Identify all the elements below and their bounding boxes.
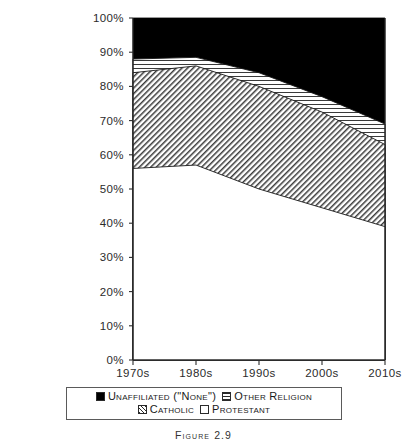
area-series-group [133,18,385,360]
legend-label-unaffiliated: Unaffiliated ("None") [108,391,216,402]
diagonal-hatch-swatch-icon [138,405,147,414]
horizontal-lines-swatch-icon [222,392,231,401]
y-axis-tick-label: 40% [100,217,124,229]
y-axis-tick-label: 20% [100,286,124,298]
y-axis-tick-label: 100% [93,12,124,24]
figure-caption: Figure 2.9 [0,429,407,441]
y-axis-tick-labels: 0%10%20%30%40%50%60%70%80%90%100% [93,12,124,366]
x-axis-tick-label: 1980s [179,367,212,379]
white-swatch-icon [200,405,209,414]
y-axis-tick-label: 30% [100,251,124,263]
legend-item-catholic[interactable]: Catholic [138,404,194,415]
legend-label-catholic: Catholic [150,404,194,415]
legend-row-bottom: Catholic Protestant [67,404,341,415]
x-axis-ticks [133,360,385,365]
x-axis-tick-labels: 1970s1980s1990s2000s2010s [116,367,401,379]
y-axis-tick-label: 0% [107,354,124,366]
y-axis-tick-label: 70% [100,115,124,127]
legend-label-protestant: Protestant [212,404,270,415]
legend-item-protestant[interactable]: Protestant [200,404,270,415]
y-axis-tick-label: 10% [100,320,124,332]
x-axis-tick-label: 1970s [116,367,149,379]
solid-black-swatch-icon [96,392,105,401]
figure-2-9: 0%10%20%30%40%50%60%70%80%90%100% 1970s1… [0,0,407,447]
legend-item-unaffiliated[interactable]: Unaffiliated ("None") [96,391,216,402]
stacked-area-chart: 0%10%20%30%40%50%60%70%80%90%100% 1970s1… [0,0,407,380]
x-axis-tick-label: 2010s [368,367,401,379]
x-axis-tick-label: 1990s [242,367,275,379]
y-axis-tick-label: 80% [100,80,124,92]
y-axis-tick-label: 90% [100,46,124,58]
chart-legend: Unaffiliated ("None") Other Religion Cat… [66,387,342,420]
legend-item-other-religion[interactable]: Other Religion [222,391,312,402]
legend-label-other-religion: Other Religion [234,391,312,402]
legend-row-top: Unaffiliated ("None") Other Religion [67,391,341,402]
y-axis-tick-label: 60% [100,149,124,161]
x-axis-tick-label: 2000s [305,367,338,379]
y-axis-tick-label: 50% [100,183,124,195]
